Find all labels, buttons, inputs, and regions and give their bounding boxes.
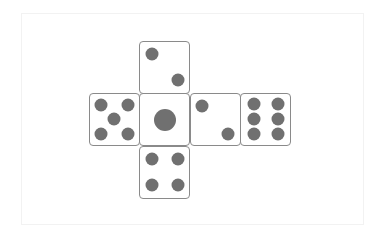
pip [172,74,185,87]
pip [146,153,159,166]
pip [248,98,261,111]
die-face-far-right-six [240,93,291,146]
pip [248,113,261,126]
pip [222,128,235,141]
pip [108,113,121,126]
die-face-left-five [89,93,140,146]
die-face-right-two [190,93,241,146]
pip [248,128,261,141]
pip [146,48,159,61]
pip-large [154,109,176,131]
pip [122,99,135,112]
pip [122,128,135,141]
pip [272,98,285,111]
pip [172,179,185,192]
pip [272,128,285,141]
pip [272,113,285,126]
die-face-bottom-four [139,146,190,199]
pip [95,128,108,141]
pip [95,99,108,112]
pip [172,153,185,166]
pip [146,179,159,192]
die-face-top-two [139,41,190,94]
die-face-center-one [139,93,190,146]
pip [196,100,209,113]
